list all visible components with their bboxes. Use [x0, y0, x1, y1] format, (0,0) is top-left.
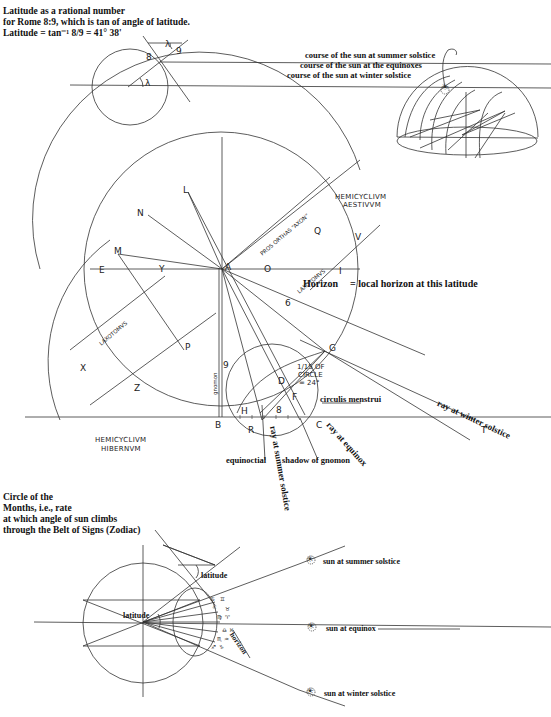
- latitude-top-label: latitude: [201, 570, 227, 581]
- latitude-center-label: latitude: [123, 610, 149, 621]
- zodiac-sign-capricorn: ♑: [219, 644, 224, 650]
- zodiac-sign-libra: ♎: [222, 627, 227, 633]
- point-B: B: [215, 420, 221, 430]
- sun-summer-solstice-label: sun at summer solstice: [323, 556, 400, 567]
- zodiac-sign-taurus: ♉: [225, 606, 230, 612]
- point-M: M: [114, 246, 122, 256]
- hemicyclium-aestivum-line-2: AESTIVVM: [343, 201, 381, 209]
- point-E: E: [99, 265, 105, 275]
- eight-label: 8: [146, 52, 152, 62]
- number-eight: 8: [276, 405, 282, 415]
- point-N: N: [137, 208, 144, 218]
- zodiac-sign-scorpio: ♏: [217, 636, 222, 642]
- latitude-caption-line-2: for Rome 8:9, which is tan of angle of l…: [3, 17, 190, 28]
- months-caption-line-2: Months, i.e., rate: [3, 503, 72, 514]
- gnomon-label: gnomon: [212, 372, 218, 395]
- number-nine: 9: [223, 360, 229, 370]
- horizon-label: Horizon: [303, 278, 338, 289]
- number-six: 6: [285, 298, 291, 308]
- shadow-of-gnomon-label: shadow of gnomon: [282, 455, 350, 466]
- months-caption-line-4: through the Belt of Signs (Zodiac): [3, 525, 140, 536]
- lambda-center-label: λ: [145, 78, 150, 88]
- legend-winter-solstice: course of the sun at winter solstice: [287, 70, 411, 81]
- point-L: L: [183, 185, 188, 195]
- hemicyclium-aestivum-line-1: HEMICYCLIVM: [335, 193, 386, 201]
- sun-equinox-label: sun at equinox: [326, 623, 376, 634]
- point-Q: Q: [314, 226, 321, 236]
- point-G: G: [329, 343, 336, 353]
- circulis-menstrui-label: circulis menstrui: [320, 394, 381, 405]
- zodiac-sign-pisces: ♓: [229, 627, 234, 633]
- hemicyclium-hibernum-line-2: HIBERNVM: [101, 445, 141, 453]
- point-A: A: [225, 262, 231, 272]
- point-P: P: [185, 342, 190, 352]
- point-X: X: [80, 363, 86, 373]
- point-H: H: [241, 406, 248, 416]
- equinoctial-label: equinoctial: [226, 455, 266, 466]
- zodiac-sign-aries: ♈: [225, 614, 230, 620]
- fifteenth-circle-line-1: 1/15 OF: [297, 363, 324, 371]
- point-C: C: [316, 420, 322, 430]
- sun-winter-solstice-label: sun at winter solstice: [324, 688, 395, 699]
- zodiac-sign-aquarius: ♒: [224, 636, 229, 642]
- point-F: F: [292, 392, 297, 402]
- fifteenth-circle-line-3: = 24°: [299, 379, 320, 387]
- zodiac-sign-sagittarius: ♐: [211, 644, 216, 650]
- latitude-caption-line-1: Latitude as a rational number: [3, 6, 125, 17]
- sun-icon: ☀: [306, 686, 314, 696]
- point-D: D: [278, 376, 285, 386]
- horizon-note: = local horizon at this latitude: [350, 278, 478, 289]
- sun-icon: ☀: [307, 621, 315, 631]
- latitude-caption-line-3: Latitude = tan⁻¹ 8/9 = 41° 38': [3, 28, 122, 39]
- point-V: V: [355, 232, 361, 242]
- point-Z: Z: [134, 383, 140, 393]
- diagram-canvas: [0, 0, 551, 717]
- point-R: R: [248, 425, 254, 435]
- zodiac-sign-leo: ♌: [212, 604, 217, 610]
- zodiac-sign-gemini: ♊: [220, 596, 225, 602]
- circle-of-months: [34, 530, 551, 706]
- sun-icon: ☀: [441, 82, 449, 92]
- sun-icon: ☀: [306, 554, 314, 564]
- point-I: I: [339, 266, 342, 276]
- point-O: O: [264, 264, 271, 274]
- fifteenth-circle-line-2: CIRCLE: [298, 371, 323, 379]
- nine-label: 9: [176, 46, 182, 56]
- lambda-top-label: λ: [165, 39, 170, 49]
- zodiac-sign-virgo: ♍: [217, 614, 222, 620]
- months-caption-line-1: Circle of the: [3, 492, 53, 503]
- zodiac-sign-cancer: ♋: [210, 596, 215, 602]
- point-Y: Y: [159, 264, 165, 274]
- hemicyclium-hibernum-line-1: HEMICYCLIVM: [95, 436, 146, 444]
- months-caption-line-3: at which angle of sun climbs: [3, 514, 117, 525]
